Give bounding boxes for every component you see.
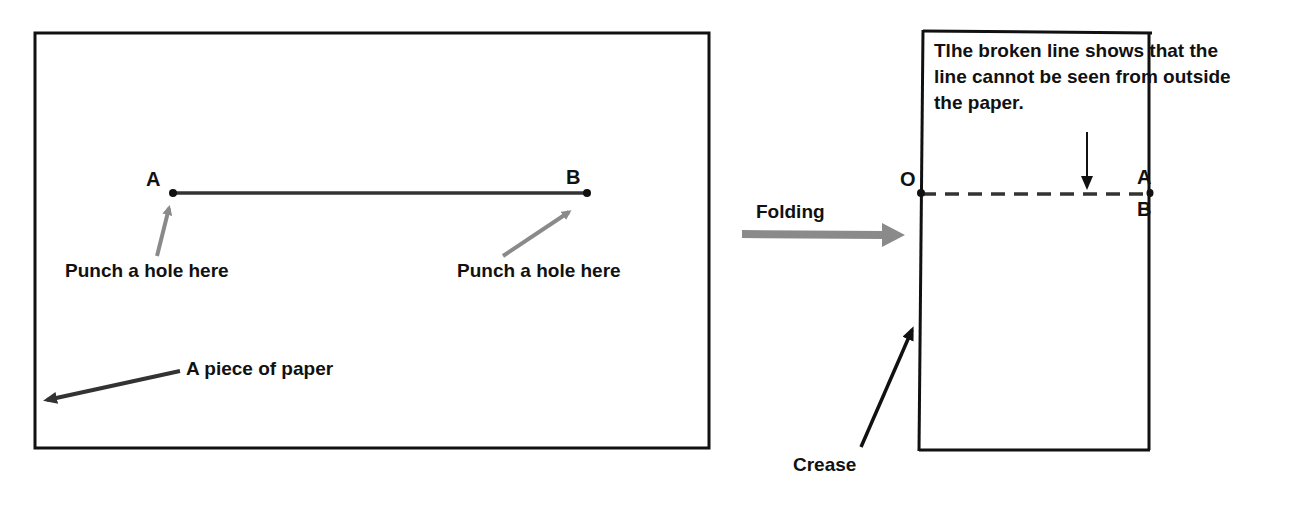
hole-pointer-arrows: [157, 208, 569, 256]
hole-label-left: Punch a hole here: [65, 260, 229, 282]
paper-label: A piece of paper: [186, 358, 333, 380]
point-ab-dot: [1147, 189, 1154, 197]
folding-arrow: [742, 223, 905, 247]
hole-b-dot: [583, 189, 591, 197]
crease-pointer-arrow: [861, 330, 912, 447]
crease-edge: [919, 30, 923, 451]
crease-label: Crease: [793, 454, 856, 476]
broken-line-note: Tlhe broken line shows that the line can…: [934, 38, 1254, 116]
hole-a-dot: [169, 189, 177, 197]
hidden-segment: [917, 189, 1154, 197]
point-a-label: A: [146, 168, 160, 191]
hole-arrow-right: [503, 212, 569, 256]
point-b-folded-label: B: [1137, 198, 1151, 221]
segment-ab: [169, 189, 591, 197]
point-o-label: O: [900, 168, 916, 191]
folding-label: Folding: [756, 201, 825, 223]
point-b-label: B: [566, 166, 580, 189]
hole-label-right: Punch a hole here: [457, 260, 621, 282]
paper-flat: [35, 33, 709, 448]
hole-arrow-left: [157, 208, 169, 256]
paper-pointer-arrow: [47, 371, 180, 400]
point-o-dot: [917, 189, 925, 197]
point-a-folded-label: A: [1137, 166, 1151, 189]
